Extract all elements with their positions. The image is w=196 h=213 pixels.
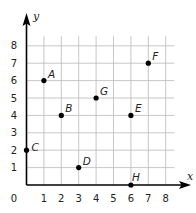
x-tick-label: 6 [128, 193, 134, 204]
data-point-label: A [47, 68, 55, 80]
origin-label: 0 [11, 193, 17, 204]
y-tick-label: 4 [11, 110, 17, 121]
x-tick-label: 2 [58, 193, 64, 204]
y-tick-label: 2 [11, 145, 17, 156]
data-point [24, 148, 29, 153]
coordinate-plane: x y 0 1234567812345678 ABCDEFGH [0, 0, 196, 213]
data-point-label: B [65, 102, 72, 114]
y-tick-label: 7 [11, 58, 17, 69]
data-point [146, 61, 151, 66]
y-tick-label: 8 [11, 40, 17, 51]
data-point [128, 182, 133, 187]
tick-labels: 1234567812345678 [11, 40, 169, 204]
data-point-label: C [32, 141, 40, 153]
data-point [41, 78, 46, 83]
data-point [94, 95, 99, 100]
x-tick-label: 5 [110, 193, 116, 204]
y-tick-label: 5 [11, 93, 17, 104]
data-point [128, 113, 133, 118]
x-tick-label: 8 [163, 193, 169, 204]
data-point [59, 113, 64, 118]
data-point-label: E [135, 102, 142, 114]
data-point [76, 165, 81, 170]
y-tick-label: 3 [11, 127, 17, 138]
data-point-label: G [100, 85, 108, 97]
y-tick-label: 1 [11, 162, 17, 173]
x-tick-label: 1 [41, 193, 47, 204]
x-tick-label: 3 [76, 193, 82, 204]
axes: x y 0 [11, 10, 194, 204]
y-tick-label: 6 [11, 75, 17, 86]
x-tick-label: 4 [93, 193, 99, 204]
data-point-label: H [132, 171, 140, 183]
y-axis-label: y [32, 10, 40, 23]
data-point-label: F [152, 50, 159, 62]
x-tick-label: 7 [145, 193, 151, 204]
data-point-label: D [83, 155, 91, 167]
x-axis-label: x [187, 170, 194, 183]
